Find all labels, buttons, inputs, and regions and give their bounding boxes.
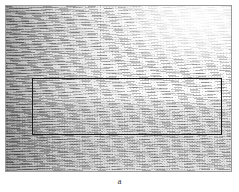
highlight-rectangle[interactable] (32, 78, 222, 135)
seismic-figure: a (0, 0, 239, 192)
seismic-panel[interactable] (5, 5, 232, 172)
figure-caption-label: a (0, 176, 239, 186)
